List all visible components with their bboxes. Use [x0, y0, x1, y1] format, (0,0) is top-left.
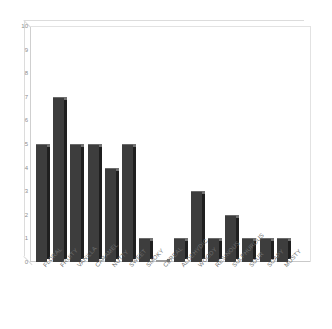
y-axis-tick-label: 10 — [8, 23, 28, 29]
bar-side-face — [99, 144, 102, 259]
bar-top-face — [236, 215, 239, 218]
bar-top-face — [47, 144, 50, 147]
x-axis: FLORALFRUITYVANILLACARAMELNUTTYSWEETSMOK… — [30, 264, 330, 326]
bar-top-face — [64, 97, 67, 100]
bar[interactable] — [122, 144, 133, 262]
bar-top-face — [81, 144, 84, 147]
y-axis-tick-label: 0 — [8, 259, 28, 265]
bar-side-face — [236, 215, 239, 259]
bar-side-face — [64, 97, 67, 259]
y-axis: 012345678910 — [2, 0, 28, 329]
bar[interactable] — [70, 144, 81, 262]
y-axis-tick-label: 5 — [8, 141, 28, 147]
bar-top-face — [99, 144, 102, 147]
bar-top-face — [271, 238, 274, 241]
bar-top-face — [150, 238, 153, 241]
y-axis-tick-label: 2 — [8, 212, 28, 218]
bars-layer — [30, 26, 310, 262]
bar-side-face — [47, 144, 50, 259]
bar-top-face — [133, 144, 136, 147]
bar[interactable] — [53, 97, 64, 262]
bar-chart: 012345678910 FLORALFRUITYVANILLACARAMELN… — [0, 0, 332, 329]
bar-front-face — [70, 144, 81, 262]
bar-top-face — [219, 238, 222, 241]
y-axis-tick-label: 4 — [8, 165, 28, 171]
bar-side-face — [81, 144, 84, 259]
y-axis-tick-label: 1 — [8, 235, 28, 241]
y-axis-tick-label: 7 — [8, 94, 28, 100]
plot-right-edge — [310, 26, 311, 262]
y-axis-tick-label: 6 — [8, 117, 28, 123]
bar-top-face — [116, 168, 119, 171]
bar-top-face — [202, 191, 205, 194]
bar-front-face — [36, 144, 47, 262]
bar-side-face — [133, 144, 136, 259]
bar-top-face — [288, 238, 291, 241]
bar[interactable] — [36, 144, 47, 262]
bar-front-face — [122, 144, 133, 262]
y-axis-tick-label: 8 — [8, 70, 28, 76]
y-axis-tick-label: 9 — [8, 47, 28, 53]
bar-top-face — [185, 238, 188, 241]
y-axis-tick-label: 3 — [8, 188, 28, 194]
bar-front-face — [53, 97, 64, 262]
